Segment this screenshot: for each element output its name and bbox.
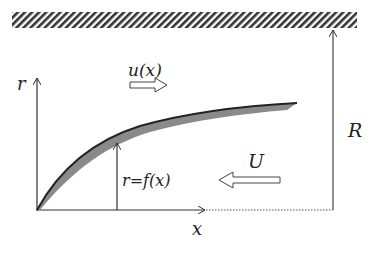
x-axis-label: x <box>192 218 202 239</box>
diagram-canvas: r x u(x) U R r=f(x) <box>0 0 381 257</box>
r-axis-label: r <box>17 73 27 94</box>
radius-label: R <box>347 119 362 141</box>
hatched-wall <box>12 12 357 28</box>
free-stream-label: U <box>248 150 265 172</box>
free-stream-arrow-icon <box>219 172 280 188</box>
local-velocity-label: u(x) <box>128 60 162 80</box>
local-velocity-arrow-icon <box>130 78 167 92</box>
surface-label: r=f(x) <box>122 171 170 190</box>
